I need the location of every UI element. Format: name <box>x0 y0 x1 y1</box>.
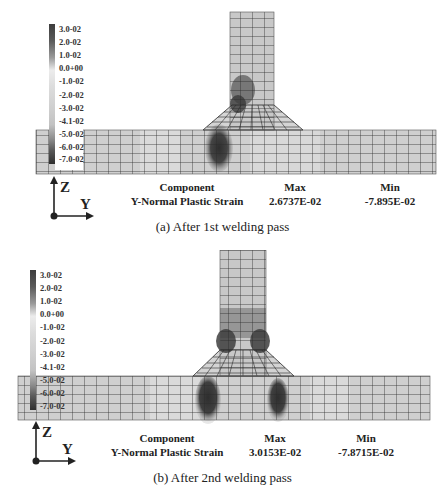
legend-tick: -4.1-02 <box>59 116 84 126</box>
max-info: Max 2.6737E-02 <box>260 180 330 208</box>
axis-y-label: Y <box>80 196 91 212</box>
legend-tick: 0.0+00 <box>40 309 64 319</box>
color-legend-b: 3.0-02 2.0-02 1.0-02 0.0+00 -1.0-02 -2.0… <box>30 270 80 410</box>
component-value: Y-Normal Plastic Strain <box>102 445 232 459</box>
min-info: Min -7.8715E-02 <box>326 431 406 459</box>
legend-tick: -1.0-02 <box>59 76 84 86</box>
legend-tick: 3.0-02 <box>59 24 81 34</box>
legend-tick: 1.0-02 <box>59 50 81 60</box>
component-info: Component Y-Normal Plastic Strain <box>102 431 232 459</box>
legend-tick: -1.0-02 <box>40 322 65 332</box>
legend-tick: -2.0-02 <box>59 90 84 100</box>
min-value: -7.8715E-02 <box>326 445 406 459</box>
component-header: Component <box>102 431 232 445</box>
legend-tick: -3.0-02 <box>59 103 84 113</box>
legend-tick: -7.0-02 <box>40 401 65 411</box>
axis-z-label: Z <box>42 424 52 440</box>
legend-tick: -6.0-02 <box>40 388 65 398</box>
legend-colorbar <box>49 24 55 164</box>
component-value: Y-Normal Plastic Strain <box>122 194 252 208</box>
legend-tick: -4.1-02 <box>40 362 65 372</box>
min-value: -7.895E-02 <box>350 194 430 208</box>
max-header: Max <box>240 431 310 445</box>
color-legend-a: 3.0-02 2.0-02 1.0-02 0.0+00 -1.0-02 -2.0… <box>49 24 99 164</box>
min-header: Min <box>350 180 430 194</box>
min-info: Min -7.895E-02 <box>350 180 430 208</box>
component-header: Component <box>122 180 252 194</box>
legend-tick: 0.0+00 <box>59 63 83 73</box>
max-header: Max <box>260 180 330 194</box>
legend-tick: 1.0-02 <box>40 296 62 306</box>
axis-y-label: Y <box>62 441 73 457</box>
legend-tick: -7.0-02 <box>59 154 84 164</box>
legend-tick: 2.0-02 <box>40 283 62 293</box>
component-info: Component Y-Normal Plastic Strain <box>122 180 252 208</box>
max-value: 2.6737E-02 <box>260 194 330 208</box>
legend-tick: -3.0-02 <box>40 349 65 359</box>
min-header: Min <box>326 431 406 445</box>
legend-tick: 3.0-02 <box>40 270 62 280</box>
caption-a: (a) After 1st welding pass <box>0 219 445 235</box>
caption-b: (b) After 2nd welding pass <box>0 470 445 486</box>
figure-b: 3.0-02 2.0-02 1.0-02 0.0+00 -1.0-02 -2.0… <box>0 250 445 503</box>
legend-tick: 2.0-02 <box>59 37 81 47</box>
legend-tick: -2.0-02 <box>40 336 65 346</box>
axis-z-label: Z <box>60 179 70 195</box>
legend-colorbar <box>30 270 36 410</box>
legend-tick: -5.0-02 <box>40 375 65 385</box>
legend-tick: -5.0-02 <box>59 129 84 139</box>
zy-axis-icon: Z Y <box>40 175 100 225</box>
zy-axis-icon: Z Y <box>22 420 82 470</box>
figure-a: 3.0-02 2.0-02 1.0-02 0.0+00 -1.0-02 -2.0… <box>0 0 445 250</box>
legend-tick: -6.0-02 <box>59 142 84 152</box>
max-info: Max 3.0153E-02 <box>240 431 310 459</box>
max-value: 3.0153E-02 <box>240 445 310 459</box>
